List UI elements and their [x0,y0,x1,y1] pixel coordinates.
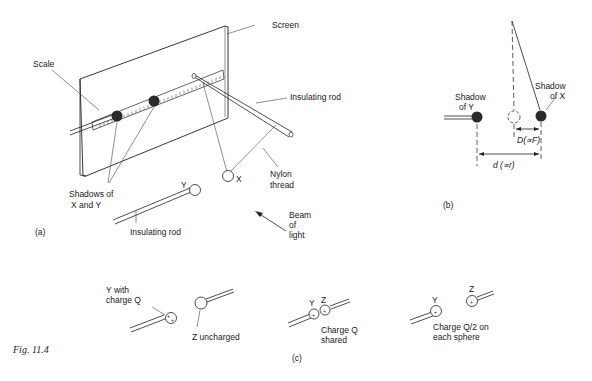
sphere-y [190,185,201,196]
plus-sign: + [470,299,473,305]
plus-sign: + [323,308,326,314]
half-label-1: Charge Q/2 on [433,322,489,332]
plus-sign: + [167,313,170,319]
rod-top-leader [256,98,287,103]
panel-c: + + Y with charge Q Z uncharged + + Y Z … [106,284,494,363]
panel-c-tag: (c) [292,353,302,363]
y2-label: Y [309,298,315,308]
shadow-y-label-2: of Y [459,102,474,112]
D-label: D(∝F) [517,135,540,145]
screen-label: Screen [272,20,299,30]
z3-label: Z [469,284,474,294]
nylon-leader [263,148,278,167]
d-label: d (∝r) [493,160,515,170]
vertical-dashed-line [512,21,514,110]
beam-label-2: of [289,220,297,230]
beam-arrow [255,211,286,231]
c-stage-2: + + Y Z Charge Q shared (c) [288,295,358,363]
plus-sign: + [312,312,315,318]
shadows-label-1: Shadows of [69,189,114,199]
sphere-y-label: Y [181,180,187,190]
nylon-label-2: thread [270,180,294,190]
shadow-x-label-2: of X [550,91,565,101]
shared-label-2: shared [321,335,347,345]
y3-label: Y [432,295,438,305]
y-with-label-2: charge Q [106,295,141,305]
c-stage-3: + Y + Z Charge Q/2 on each sphere [410,284,494,342]
half-label-2: each sphere [433,332,480,342]
original-position [508,111,520,123]
sphere-x-label: X [236,174,242,184]
shadows-label-2: X and Y [71,200,101,210]
screen-leader [227,25,255,34]
beam-label-3: light [289,230,305,240]
shadow-x-label-1: Shadow [535,81,567,91]
beam-label-1: Beam [289,210,311,220]
insulating-rod-bottom-label: Insulating rod [130,227,181,237]
panel-b-tag: (b) [443,200,454,210]
z2-label: Z [321,295,326,305]
panel-b: Shadow of Y Shadow of X D(∝F) d (∝r) (b) [443,21,567,210]
sphere-y-assembly: Y [113,180,201,224]
shadow-x-b [536,111,547,122]
z-uncharged-label: Z uncharged [192,332,240,342]
shared-label-1: Charge Q [321,325,358,335]
plus-sign: + [434,309,437,315]
nylon-thread-2 [230,125,276,172]
figure-11-4: X Y Screen Scale Insulating rod Nylon th… [0,0,592,381]
shadow-y-dot [112,111,123,122]
shadow-y-label-1: Shadow [455,92,487,102]
scale-label: Scale [33,59,55,69]
c-stage-1: + + Y with charge Q Z uncharged [106,285,240,342]
plus-sign: + [171,317,174,323]
insulating-rod-top-label: Insulating rod [290,92,341,102]
shadow-x-dot [149,96,160,107]
panel-a: X Y Screen Scale Insulating rod Nylon th… [33,20,341,240]
sphere-x [223,171,234,182]
nylon-label-1: Nylon [270,169,292,179]
shadow-y-b [472,112,483,123]
y-with-label-1: Y with [106,285,129,295]
panel-a-tag: (a) [35,227,46,237]
figure-caption: Fig. 11.4 [12,344,49,355]
deflected-thread [512,21,540,110]
